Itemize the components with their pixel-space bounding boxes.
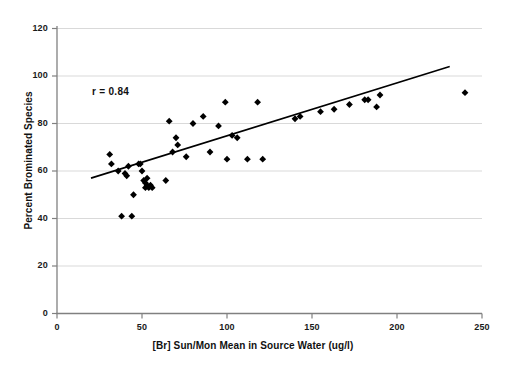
data-point-marker — [462, 89, 469, 96]
data-point-marker — [373, 103, 380, 110]
data-point-marker — [244, 156, 251, 163]
data-point-marker — [183, 153, 190, 160]
data-point-marker — [174, 141, 181, 148]
data-point-marker — [106, 151, 113, 158]
data-point-marker — [139, 168, 146, 175]
data-point-marker — [207, 149, 214, 156]
gridlines — [57, 29, 482, 267]
y-axis-title: Percent Brominated Species — [23, 51, 34, 271]
data-point-marker — [224, 156, 231, 163]
x-tick-label-200: 200 — [377, 322, 417, 332]
data-point-marker — [222, 99, 229, 106]
data-point-marker — [346, 101, 353, 108]
scatter-plot-canvas — [0, 0, 506, 370]
x-tick-label-100: 100 — [207, 322, 247, 332]
x-tick-label-50: 50 — [122, 322, 162, 332]
data-point-marker — [200, 113, 207, 120]
data-point-marker — [169, 149, 176, 156]
data-point-marker — [130, 191, 137, 198]
data-point-marker — [259, 156, 266, 163]
data-point-marker — [125, 163, 132, 170]
y-axis-ticks — [52, 29, 57, 314]
x-axis-title: [Br] Sun/Mon Mean in Source Water (ug/l) — [0, 340, 506, 351]
data-point-marker — [317, 108, 324, 115]
correlation-annotation: r = 0.84 — [92, 86, 129, 97]
y-tick-label-120: 120 — [18, 23, 48, 33]
data-point-marker — [190, 120, 197, 127]
y-tick-label-0: 0 — [18, 308, 48, 318]
data-point-marker — [173, 134, 180, 141]
data-point-marker — [331, 106, 338, 113]
data-point-marker — [377, 92, 384, 99]
trendline-segment — [91, 67, 450, 179]
x-tick-label-150: 150 — [292, 322, 332, 332]
x-tick-label-250: 250 — [462, 322, 502, 332]
data-point-markers — [106, 89, 468, 219]
data-point-marker — [108, 160, 115, 167]
x-axis-ticks — [57, 314, 482, 319]
data-point-marker — [162, 177, 169, 184]
chart-figure: 120 100 80 60 40 20 0 0 50 100 150 200 2… — [0, 0, 506, 370]
x-tick-label-0: 0 — [37, 322, 77, 332]
trendline — [91, 67, 450, 179]
data-point-marker — [254, 99, 261, 106]
